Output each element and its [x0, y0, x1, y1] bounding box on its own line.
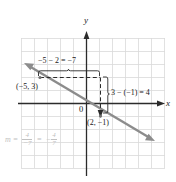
slope-formula: m =4−7=−47: [5, 132, 57, 148]
y-axis-arrowhead: [84, 31, 90, 39]
rise-annotation: 3 − (−1) = 4: [111, 89, 150, 97]
point-marker-a: [38, 76, 41, 79]
point-label-b: (2, −1): [87, 119, 109, 127]
point-label-a: (−5, 3): [16, 83, 38, 91]
slope-fraction-two: 47: [51, 132, 57, 148]
slope-illustration-figure: y x 0 −5 − 2 = −7 3 − (−1) = 4 (−5, 3) (…: [0, 0, 176, 182]
run-annotation: −5 − 2 = −7: [38, 57, 76, 65]
slope-fraction-one: 4−7: [22, 132, 32, 148]
slope-formula-prefix: m =: [5, 135, 18, 144]
y-axis-label: y: [84, 16, 88, 25]
origin-label: 0: [79, 105, 83, 114]
slope-fraction-two-denominator: 7: [51, 140, 57, 147]
x-axis-label: x: [166, 99, 170, 108]
rise-brace: [103, 77, 109, 113]
slope-formula-equals: =: [36, 135, 41, 144]
x-axis-arrowhead: [157, 101, 165, 107]
slope-fraction-one-denominator: −7: [22, 140, 32, 147]
